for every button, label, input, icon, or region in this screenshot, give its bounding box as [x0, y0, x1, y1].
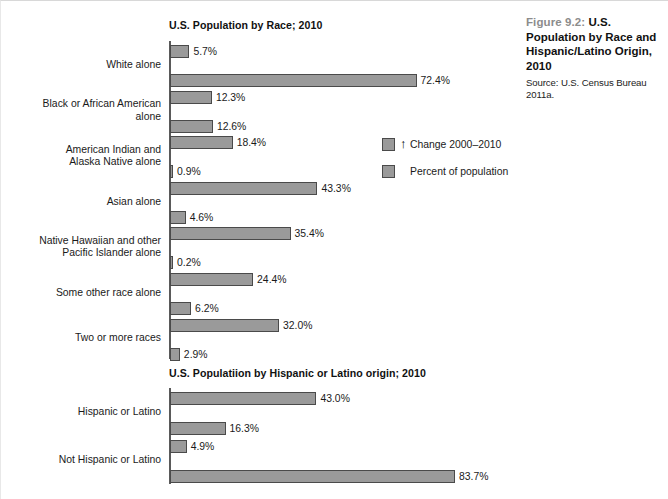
bar-percent: [170, 165, 173, 178]
bar-percent: [170, 348, 180, 361]
bar-percent: [170, 302, 191, 315]
bar-value-label: 12.6%: [217, 120, 246, 133]
category-label: White alone: [1, 59, 161, 71]
bar-value-label: 72.4%: [421, 74, 450, 87]
bar-value-label: 5.7%: [193, 45, 217, 58]
legend-swatch-change: [382, 138, 395, 151]
bar-value-label: 43.3%: [321, 182, 350, 195]
bar-value-label: 83.7%: [459, 470, 488, 483]
bar-value-label: 0.9%: [177, 165, 201, 178]
bar-change: [170, 91, 212, 104]
bar-percent: [170, 74, 417, 87]
bar-percent: [170, 211, 186, 224]
bar-value-label: 6.2%: [195, 302, 219, 315]
category-label: Asian alone: [1, 196, 161, 208]
bar-percent: [170, 256, 173, 269]
legend-label-change: Change 2000–2010: [410, 137, 501, 153]
bar-value-label: 43.0%: [320, 392, 349, 405]
bar-value-label: 24.4%: [257, 273, 286, 286]
bar-value-label: 16.3%: [230, 422, 259, 435]
bar-value-label: 0.2%: [177, 256, 201, 269]
bar-value-label: 2.9%: [184, 348, 208, 361]
figure-source: Source: U.S. Census Bureau 2011a.: [526, 77, 664, 101]
plot-area: White alone5.7%72.4%Black or African Ame…: [169, 41, 519, 359]
chart-population-by-hispanic-origin: U.S. Populatiion by Hispanic or Latino o…: [1, 363, 521, 493]
bar-change: [170, 136, 233, 149]
bar-value-label: 4.9%: [191, 440, 215, 453]
bar-value-label: 12.3%: [216, 91, 245, 104]
category-label: Black or African Americanalone: [1, 98, 161, 123]
figure-number: Figure 9.2:: [526, 16, 585, 28]
bar-change: [170, 273, 253, 286]
figure-caption: Figure 9.2: U.S. Population by Race and …: [526, 15, 664, 101]
category-label: Native Hawaiian and otherPacific Islande…: [1, 235, 161, 260]
bar-change: [170, 182, 317, 195]
category-label: Hispanic or Latino: [1, 406, 161, 418]
legend-swatch-percent: [382, 165, 395, 178]
bar-change: [170, 45, 189, 58]
bar-value-label: 35.4%: [295, 227, 324, 240]
category-label: American Indian andAlaska Native alone: [1, 144, 161, 169]
bar-change: [170, 440, 187, 453]
chart-title: U.S. Populatiion by Hispanic or Latino o…: [169, 367, 426, 379]
bar-percent: [170, 120, 213, 133]
bar-value-label: 4.6%: [190, 211, 214, 224]
bar-percent: [170, 422, 226, 435]
bar-value-label: 18.4%: [237, 136, 266, 149]
bar-change: [170, 319, 279, 332]
plot-area: Hispanic or Latino43.0%16.3%Not Hispanic…: [169, 388, 519, 484]
category-label: Some other race alone: [1, 287, 161, 299]
chart-population-by-race: U.S. Population by Race; 2010 White alon…: [1, 1, 521, 361]
bar-change: [170, 392, 316, 405]
figure-page: Figure 9.2: U.S. Population by Race and …: [0, 0, 668, 499]
category-label: Not Hispanic or Latino: [1, 454, 161, 466]
legend-label-percent: Percent of population: [410, 164, 508, 180]
bar-change: [170, 227, 291, 240]
up-arrow-icon: ↑: [400, 136, 407, 152]
bar-value-label: 32.0%: [283, 319, 312, 332]
chart-title: U.S. Population by Race; 2010: [169, 19, 322, 31]
bar-percent: [170, 470, 455, 483]
category-label: Two or more races: [1, 332, 161, 344]
